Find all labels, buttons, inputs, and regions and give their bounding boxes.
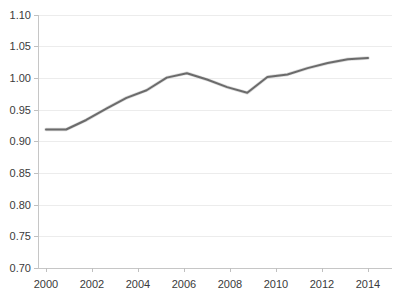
x-tickmarks (46, 268, 368, 272)
x-tick-label: 2000 (34, 278, 58, 290)
x-axis-labels: 2000 2002 2004 2006 2008 2010 2012 2014 (34, 278, 380, 290)
y-tick-label: 0.75 (10, 230, 31, 242)
x-tick-label: 2014 (356, 278, 380, 290)
series-line-index (46, 58, 368, 129)
y-tickmarks (34, 15, 38, 268)
y-axis-labels: 1.10 1.05 1.00 0.95 0.90 0.85 0.80 0.75 … (10, 9, 31, 274)
y-tick-label: 0.95 (10, 104, 31, 116)
chart-canvas: 1.10 1.05 1.00 0.95 0.90 0.85 0.80 0.75 … (0, 0, 398, 304)
x-tick-label: 2008 (218, 278, 242, 290)
x-tick-label: 2006 (172, 278, 196, 290)
y-tick-label: 0.80 (10, 199, 31, 211)
x-tick-label: 2002 (80, 278, 104, 290)
y-tick-label: 0.85 (10, 167, 31, 179)
x-tick-label: 2010 (264, 278, 288, 290)
x-tick-label: 2012 (310, 278, 334, 290)
line-chart: 1.10 1.05 1.00 0.95 0.90 0.85 0.80 0.75 … (0, 0, 398, 304)
y-tick-label: 0.70 (10, 262, 31, 274)
y-tick-label: 0.90 (10, 135, 31, 147)
x-tick-label: 2004 (126, 278, 150, 290)
gridlines-horizontal (38, 15, 392, 236)
series-line-halo (46, 58, 368, 129)
y-tick-label: 1.00 (10, 72, 31, 84)
y-tick-label: 1.05 (10, 40, 31, 52)
y-tick-label: 1.10 (10, 9, 31, 21)
